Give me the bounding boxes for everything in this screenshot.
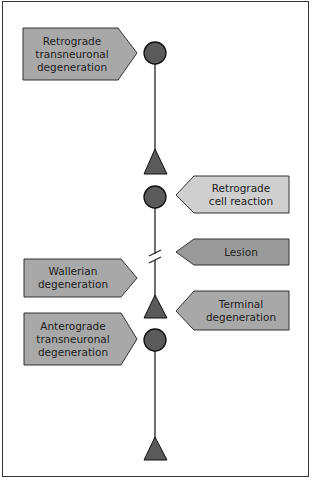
anterograde-transneuronal-arrow <box>24 313 137 365</box>
retrograde-transneuronal-arrow <box>23 28 137 80</box>
terminal-degeneration-arrow <box>176 291 289 330</box>
retrograde-cell-reaction-arrow <box>176 176 289 213</box>
lesion-arrow <box>176 239 289 265</box>
neuron-chain-graphic <box>0 0 313 480</box>
wallerian-arrow <box>24 259 137 297</box>
upper-terminal-icon <box>144 149 167 174</box>
diagram-canvas: Retrograde transneuronal degeneration Re… <box>0 0 313 480</box>
upper-cell-body-icon <box>144 42 166 64</box>
middle-cell-body-icon <box>144 186 166 208</box>
lower-terminal-icon <box>144 437 167 460</box>
lower-cell-body-icon <box>144 329 166 351</box>
middle-terminal-icon <box>144 295 167 318</box>
